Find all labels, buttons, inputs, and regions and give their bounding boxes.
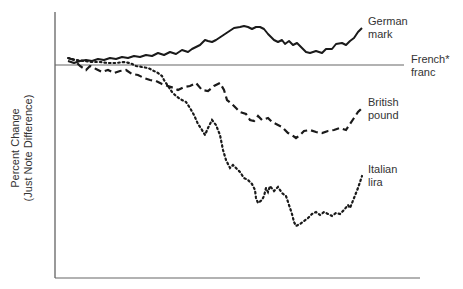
series-british-pound — [68, 58, 362, 138]
label-german-mark-line1: German — [368, 15, 408, 28]
label-german-mark-line2: mark — [368, 28, 408, 41]
label-italian-lira-line1: Italian — [368, 163, 397, 176]
label-french-franc: French* franc — [411, 53, 450, 79]
chart-canvas — [0, 0, 463, 289]
series-italian-lira — [68, 58, 362, 226]
label-french-franc-line1: French* — [411, 53, 450, 66]
y-axis-label-line1: Percent Change — [9, 95, 22, 202]
label-italian-lira: Italian lira — [368, 163, 397, 189]
label-italian-lira-line2: lira — [368, 176, 397, 189]
y-axis-label-line2: (Just Note Difference) — [22, 95, 35, 202]
label-british-pound-line2: pound — [368, 109, 399, 122]
series-german-mark — [68, 26, 362, 63]
label-british-pound-line1: British — [368, 96, 399, 109]
label-french-franc-line2: franc — [411, 66, 450, 79]
label-british-pound: British pound — [368, 96, 399, 122]
label-german-mark: German mark — [368, 15, 408, 41]
